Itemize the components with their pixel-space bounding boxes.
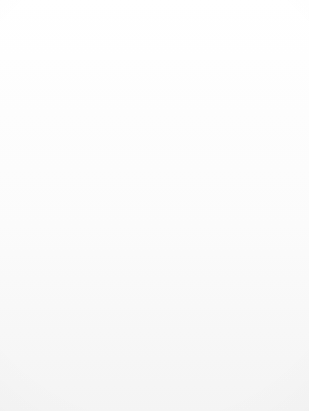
region-right-line-1: Treatment: [214, 340, 306, 352]
region-left-line-1: Diagnosis: [20, 340, 134, 352]
region-mid-line-1: Diagnosis: [140, 340, 220, 352]
callout-right-line-6: (in one year): [168, 71, 296, 82]
down-arrow-icon-left: [112, 85, 125, 118]
callout-right-line-3: receiving: [168, 37, 296, 48]
region-mid-line-3: treatment: [140, 364, 220, 376]
region-right-line-4: (7%): [214, 377, 306, 389]
leader-line-right-only: [255, 243, 256, 336]
region-right-line-3: no diagnosis: [214, 364, 306, 376]
region-label-intersection: Diagnosis and treatment (8%): [140, 340, 220, 389]
region-mid-line-4: (8%): [140, 377, 220, 389]
callout-right-line-4: mental health: [168, 48, 296, 59]
arrow-shaft: [117, 85, 120, 108]
region-label-right-only: Treatment and no diagnosis (7%): [214, 340, 306, 389]
venn-diagram: [0, 128, 309, 308]
callout-right-services: Percent of population (15%) receiving me…: [168, 14, 296, 82]
callout-right-line-2: population (15%): [168, 25, 296, 36]
region-left-line-3: no treatment: [20, 364, 134, 376]
leader-line-left-only: [77, 248, 78, 336]
diagram-canvas: Percent of population (28%) with disorde…: [0, 0, 309, 411]
callout-right-line-1: Percent of: [168, 14, 296, 25]
venn-svg: [0, 128, 309, 308]
region-right-line-2: and: [214, 352, 306, 364]
region-mid-line-2: and: [140, 352, 220, 364]
region-left-line-4: (20%): [20, 377, 134, 389]
callout-right-line-5: services: [168, 60, 296, 71]
region-left-line-2: and: [20, 352, 134, 364]
region-label-left-only: Diagnosis and no treatment (20%): [20, 340, 134, 389]
leader-line-intersection: [179, 243, 180, 336]
arrow-head: [114, 108, 124, 118]
